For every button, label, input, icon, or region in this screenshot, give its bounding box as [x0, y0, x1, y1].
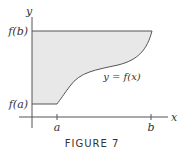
figure-diagram: y x f(b) f(a) a b y = f(x) FIGURE 7: [0, 0, 186, 157]
y-axis-label: y: [25, 5, 33, 18]
x-axis-label: x: [171, 111, 178, 124]
y-tick-fb: f(b): [7, 25, 28, 38]
y-tick-fa: f(a): [8, 98, 28, 111]
x-tick-b: b: [147, 121, 154, 134]
shaded-region: [32, 31, 152, 104]
figure-caption: FIGURE 7: [65, 138, 120, 149]
x-tick-a: a: [54, 121, 61, 134]
curve-label: y = f(x): [102, 71, 141, 82]
